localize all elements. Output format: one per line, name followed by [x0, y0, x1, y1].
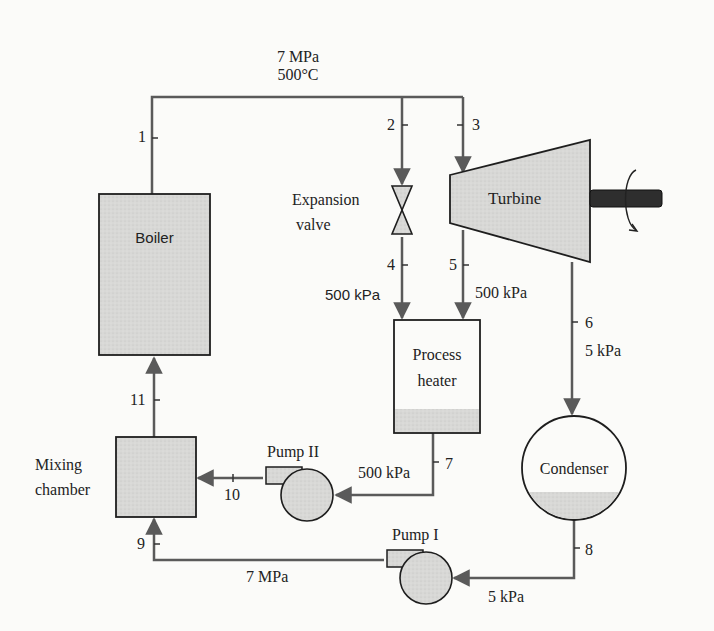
boiler-label: Boiler — [99, 229, 210, 247]
state-9-label: 9 — [137, 535, 145, 553]
state-10-label: 10 — [224, 486, 240, 504]
expansion-valve-label-1: Expansion — [292, 191, 360, 209]
state-7-label: 7 — [445, 455, 453, 473]
state-4-pressure: 500 kPa — [325, 286, 380, 304]
turbine-label: Turbine — [488, 190, 541, 208]
state-9-pressure: 7 MPa — [246, 568, 288, 586]
mixing-chamber-label-2: chamber — [35, 481, 90, 499]
state-8-label: 8 — [585, 541, 593, 559]
pump-1 — [387, 550, 452, 604]
pump-2-label: Pump II — [267, 443, 319, 461]
condenser-label: Condenser — [522, 460, 626, 478]
pump-1-label: Pump I — [392, 526, 439, 544]
state-4-label: 4 — [387, 256, 395, 274]
process-heater-label-1: Process — [394, 346, 480, 364]
state-5-label: 5 — [449, 256, 457, 274]
state-1-label: 1 — [138, 128, 146, 146]
expansion-valve-label-2: valve — [296, 216, 331, 234]
state-8-pressure: 5 kPa — [488, 588, 524, 606]
state-11-label: 11 — [130, 391, 145, 409]
pump-2 — [266, 467, 333, 521]
pipe-9 — [154, 519, 384, 560]
cycle-diagram — [0, 0, 714, 631]
state-6-pressure: 5 kPa — [585, 342, 621, 360]
state-7-pressure: 500 kPa — [358, 464, 410, 482]
boiler-exit-pressure: 7 MPa — [268, 48, 328, 66]
boiler — [99, 194, 210, 355]
state-2-label: 2 — [387, 116, 395, 134]
pipe-1 — [152, 97, 463, 194]
process-heater-label-2: heater — [394, 372, 480, 390]
mixing-chamber-label-1: Mixing — [35, 456, 82, 474]
state-5-pressure: 500 kPa — [475, 284, 527, 302]
state-6-label: 6 — [585, 314, 593, 332]
boiler-exit-temperature: 500°C — [268, 66, 328, 84]
state-3-label: 3 — [472, 116, 480, 134]
mixing-chamber — [116, 437, 196, 517]
expansion-valve-icon — [392, 186, 412, 234]
pipe-8 — [454, 520, 574, 578]
